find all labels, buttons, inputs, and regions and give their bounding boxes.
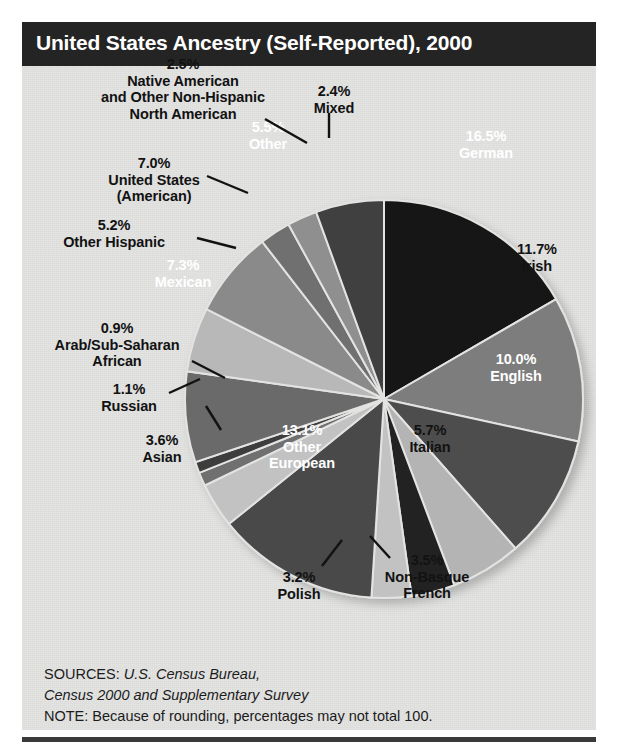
sources-italic-1: U.S. Census Bureau, (124, 666, 260, 682)
slice-label-united-states: 7.0% United States (American) (64, 155, 244, 205)
slice-label-english: 10.0% English (456, 351, 576, 384)
sources-line-2: Census 2000 and Supplementary Survey (44, 687, 308, 703)
sources-prefix: SOURCES: (44, 666, 124, 682)
footer-rule (22, 737, 596, 742)
slice-label-arab: 0.9% Arab/Sub-Saharan African (12, 320, 222, 370)
slice-label-italian: 5.7% Italian (380, 422, 480, 455)
slice-label-irish: 11.7% Irish (482, 241, 592, 274)
slice-label-russian: 1.1% Russian (64, 381, 194, 414)
slice-label-polish: 3.2% Polish (244, 569, 354, 602)
slice-label-mixed: 2.4% Mixed (288, 83, 380, 116)
slice-label-other-hispanic: 5.2% Other Hispanic (14, 217, 214, 250)
figure-panel: United States Ancestry (Self-Reported), … (22, 22, 596, 730)
slice-label-german: 16.5% German (426, 128, 546, 161)
note-line: NOTE: Because of rounding, percentages m… (44, 708, 433, 724)
pie-chart: 16.5% German 11.7% Irish 10.0% English 5… (22, 66, 596, 666)
sources-line-1: SOURCES: U.S. Census Bureau, (44, 666, 260, 682)
slice-label-mexican: 7.3% Mexican (118, 257, 248, 290)
page-title: United States Ancestry (Self-Reported), … (36, 31, 472, 55)
slice-label-asian: 3.6% Asian (102, 432, 222, 465)
footer: SOURCES: U.S. Census Bureau, Census 2000… (22, 666, 596, 730)
slice-label-non-basque-french: 3.5% Non-Basque French (352, 552, 502, 602)
slice-label-other: 5.5% Other (222, 119, 314, 152)
slice-label-native-american: 2.5% Native American and Other Non-Hispa… (38, 56, 328, 122)
slice-label-other-european: 13.1% Other European (237, 422, 367, 472)
